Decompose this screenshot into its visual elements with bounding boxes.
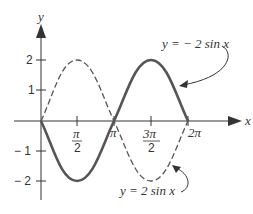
- x-tick-pi-over-2: π 2: [72, 126, 82, 155]
- x-axis-label: x: [244, 113, 251, 128]
- annotation-neg-2sinx: y = − 2 sin x: [160, 36, 229, 51]
- x-tick-3pi-over-2: 3π 2: [142, 126, 160, 155]
- y-axis-label: y: [36, 9, 44, 24]
- x-tick-2pi: 2π: [188, 125, 202, 140]
- annotation-pos-arrowhead-icon: [172, 165, 181, 173]
- y-tick-2: 2: [26, 53, 33, 67]
- x-axis-arrow-icon: [228, 116, 242, 126]
- chart-canvas: y x 2 1 − 1 − 2 π 2 π 3π 2 2π y = − 2 si…: [0, 0, 253, 214]
- annotation-neg-arrow: [183, 46, 228, 85]
- y-axis-arrow-icon: [36, 24, 46, 38]
- y-tick-1: 1: [28, 83, 35, 97]
- svg-text:3π: 3π: [142, 126, 157, 141]
- y-tick-m2: − 2: [14, 174, 31, 188]
- y-tick-m1: − 1: [14, 144, 31, 158]
- annotation-2sinx: y = 2 sin x: [118, 183, 175, 198]
- annotation-pos-arrow: [176, 168, 188, 192]
- svg-text:2: 2: [74, 141, 81, 155]
- annotation-neg-arrowhead-icon: [179, 80, 188, 88]
- sine-graph: y x 2 1 − 1 − 2 π 2 π 3π 2 2π y = − 2 si…: [0, 0, 253, 214]
- svg-text:π: π: [73, 126, 80, 141]
- x-tick-pi: π: [110, 125, 117, 140]
- svg-text:2: 2: [148, 141, 155, 155]
